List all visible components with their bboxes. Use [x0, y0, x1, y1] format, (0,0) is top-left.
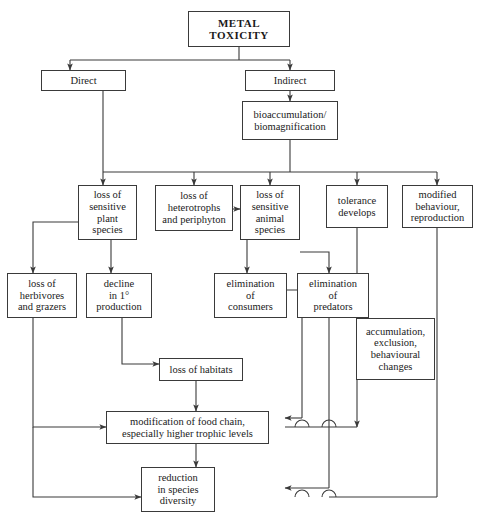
node-accumulation-exclusion-behavioural-changes: accumulation,exclusion,behaviouralchange… [356, 318, 435, 380]
node-direct-label: Direct [70, 75, 96, 87]
node-loss-habitats-label: loss of habitats [170, 364, 233, 376]
node-decline-primary-production: declinein 1°production [86, 273, 152, 318]
node-modified-behaviour-reproduction: modifiedbehaviour,reproduction [402, 185, 473, 228]
node-loss-heterotrophs-label: loss ofheterotrophsand periphyton [162, 190, 225, 225]
line-hop-c [295, 490, 309, 497]
node-reduction-in-species-diversity: reductionin speciesdiversity [141, 467, 215, 512]
flowchart-canvas: METALTOXICITY Direct Indirect bioaccumul… [0, 0, 478, 525]
node-loss-herbivores-label: loss ofherbivoresand grazers [18, 278, 66, 313]
wire-animal-predators [300, 252, 329, 273]
wire-plant-herbivores [33, 222, 78, 273]
node-loss-heterotrophs-periphyton: loss ofheterotrophsand periphyton [155, 185, 233, 231]
node-direct: Direct [41, 70, 126, 91]
node-tolerance-label: tolerancedevelops [338, 195, 376, 219]
node-loss-sensitive-animal-species: loss ofsensitiveanimalspecies [240, 185, 300, 240]
node-elimination-consumers-label: eliminationofconsumers [227, 278, 275, 313]
wire-decline-habitats [122, 318, 159, 364]
line-hop-d [322, 490, 336, 497]
node-elimination-of-predators: eliminationofpredators [297, 273, 369, 318]
node-loss-herbivores-grazers: loss ofherbivoresand grazers [7, 273, 77, 318]
node-modification-of-food-chain: modification of food chain,especially hi… [106, 411, 269, 444]
line-hop-b [322, 420, 336, 427]
wire-herbivores-modification [33, 318, 106, 427]
node-modification-food-chain-label: modification of food chain,especially hi… [122, 416, 253, 440]
node-indirect: Indirect [245, 70, 335, 91]
node-metal-toxicity: METALTOXICITY [188, 11, 290, 47]
node-elimination-of-consumers: eliminationofconsumers [214, 273, 287, 318]
node-tolerance-develops: tolerancedevelops [326, 185, 388, 228]
node-indirect-label: Indirect [274, 75, 307, 87]
node-loss-animal-label: loss ofsensitiveanimalspecies [252, 189, 289, 236]
node-bioaccumulation-label: bioaccumulation/biomagnification [254, 109, 327, 133]
node-decline-production-label: declinein 1°production [96, 278, 142, 313]
node-modified-behaviour-label: modifiedbehaviour,reproduction [411, 189, 465, 224]
node-metal-toxicity-label: METALTOXICITY [209, 17, 268, 42]
node-loss-of-habitats: loss of habitats [159, 358, 243, 381]
node-reduction-diversity-label: reductionin speciesdiversity [157, 472, 198, 507]
line-hop-a [295, 420, 309, 427]
node-loss-sensitive-plant-species: loss ofsensitiveplantspecies [78, 185, 137, 240]
node-accumulation-label: accumulation,exclusion,behaviouralchange… [366, 326, 425, 373]
node-bioaccumulation: bioaccumulation/biomagnification [242, 101, 338, 140]
node-elimination-predators-label: eliminationofpredators [309, 278, 357, 313]
node-loss-plant-label: loss ofsensitiveplantspecies [89, 189, 126, 236]
